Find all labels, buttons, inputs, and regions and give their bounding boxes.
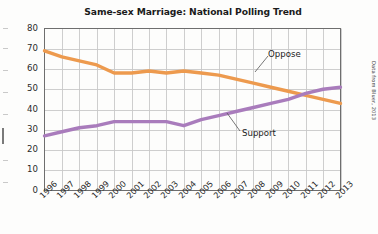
data-series <box>45 51 341 136</box>
support-label: Support <box>242 128 276 138</box>
source-note: Data from Bluer, 2013 <box>371 61 377 120</box>
y-axis-tick-label: 0 <box>16 186 38 195</box>
y-axis-tick-label: 20 <box>16 145 38 154</box>
y-axis-tick-label: 30 <box>16 125 38 134</box>
y-axis-tick-label: 10 <box>16 165 38 174</box>
y-axis-tick-label: 70 <box>16 44 38 53</box>
y-axis-tick-label: 40 <box>16 105 38 114</box>
support-leader-line <box>227 113 240 131</box>
y-axis-tick-label: 80 <box>16 24 38 33</box>
y-axis-tick-label: 50 <box>16 84 38 93</box>
annotation-leaders <box>227 56 268 131</box>
y-axis-tick-label: 60 <box>16 64 38 73</box>
oppose-label: Oppose <box>268 49 301 59</box>
chart-figure: Same-sex Marriage: National Polling Tren… <box>0 0 378 234</box>
